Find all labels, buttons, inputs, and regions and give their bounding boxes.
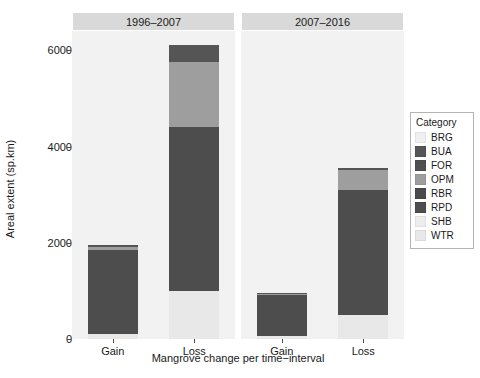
legend-title: Category	[415, 117, 470, 128]
legend-swatch-icon	[415, 160, 426, 171]
y-tick-label: 2000	[26, 237, 72, 249]
bar-segment-wtr[interactable]	[338, 315, 388, 339]
facet-panel: 1996–2007GainLoss	[72, 12, 235, 357]
y-tick-label: 0	[26, 333, 72, 345]
legend-item-label: RPD	[431, 202, 452, 213]
legend-item-for[interactable]: FOR	[415, 159, 470, 172]
y-tick-label: 4000	[26, 141, 72, 153]
x-tick-mark	[282, 339, 283, 343]
stacked-bar[interactable]	[257, 293, 307, 339]
legend-item-label: WTR	[431, 230, 454, 241]
legend-item-shb[interactable]: SHB	[415, 215, 470, 228]
facet-panel: 2007–2016GainLoss	[241, 12, 404, 357]
legend-swatch-icon	[415, 230, 426, 241]
bar-segment-bua[interactable]	[169, 45, 219, 63]
x-tick-mark	[113, 339, 114, 343]
bar-segment-wtr[interactable]	[257, 336, 307, 339]
y-tick-mark	[67, 147, 71, 148]
facet-strip-label: 1996–2007	[72, 12, 235, 31]
x-axis-title: Mangrove change per time−interval	[72, 352, 404, 364]
legend-item-label: FOR	[431, 160, 452, 171]
legend-swatch-icon	[415, 174, 426, 185]
legend-item-rbr[interactable]: RBR	[415, 187, 470, 200]
bar-segment-rpd[interactable]	[257, 295, 307, 336]
x-tick-mark	[194, 339, 195, 343]
bar-segment-rpd[interactable]	[169, 127, 219, 292]
legend-item-label: BUA	[431, 146, 452, 157]
y-tick-mark	[67, 50, 71, 51]
bar-segment-rpd[interactable]	[338, 190, 388, 315]
y-axis: 0200040006000	[16, 0, 72, 378]
legend-item-rpd[interactable]: RPD	[415, 201, 470, 214]
bar-segment-rpd[interactable]	[88, 250, 138, 334]
legend-rows: BRGBUAFOROPMRBRRPDSHBWTR	[415, 131, 470, 242]
legend-item-label: BRG	[431, 132, 453, 143]
plot-area	[72, 31, 235, 339]
legend-item-bua[interactable]: BUA	[415, 145, 470, 158]
bar-segment-opm[interactable]	[169, 62, 219, 126]
legend-item-brg[interactable]: BRG	[415, 131, 470, 144]
legend-item-label: OPM	[431, 174, 454, 185]
legend-swatch-icon	[415, 146, 426, 157]
legend-swatch-icon	[415, 132, 426, 143]
plot-area	[241, 31, 404, 339]
facet-strip-label: 2007–2016	[241, 12, 404, 31]
y-tick-mark	[67, 243, 71, 244]
x-tick-mark	[363, 339, 364, 343]
bar-segment-wtr[interactable]	[169, 291, 219, 339]
legend-swatch-icon	[415, 188, 426, 199]
stacked-bar[interactable]	[169, 44, 219, 339]
facet-panels: 1996–2007GainLoss2007–2016GainLoss	[72, 12, 404, 357]
legend-item-opm[interactable]: OPM	[415, 173, 470, 186]
legend-item-label: SHB	[431, 216, 452, 227]
legend-item-label: RBR	[431, 188, 452, 199]
y-tick-mark	[67, 339, 71, 340]
legend-item-wtr[interactable]: WTR	[415, 229, 470, 242]
stacked-bar[interactable]	[88, 245, 138, 339]
bar-chart: Areal extent (sp.km) 0200040006000 1996–…	[0, 0, 480, 378]
bar-segment-opm[interactable]	[338, 170, 388, 190]
legend-swatch-icon	[415, 202, 426, 213]
legend-swatch-icon	[415, 216, 426, 227]
bar-segment-wtr[interactable]	[88, 334, 138, 339]
stacked-bar[interactable]	[338, 168, 388, 339]
legend: Category BRGBUAFOROPMRBRRPDSHBWTR	[410, 112, 474, 249]
y-tick-label: 6000	[26, 44, 72, 56]
